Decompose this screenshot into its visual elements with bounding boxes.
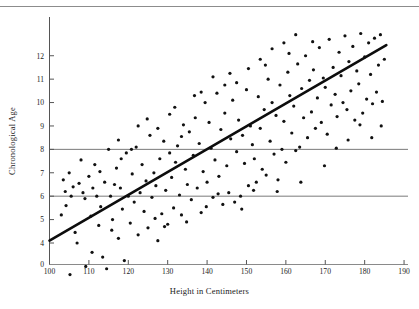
data-point <box>287 52 290 55</box>
data-point <box>168 113 171 116</box>
data-points-group <box>60 32 386 276</box>
data-point <box>221 203 224 206</box>
data-point <box>121 207 124 210</box>
data-point <box>173 106 176 109</box>
data-point <box>375 90 378 93</box>
y-tick-label: 7 <box>40 169 44 178</box>
data-point <box>240 207 243 210</box>
data-point <box>381 100 384 103</box>
data-point <box>270 47 273 50</box>
data-point <box>373 37 376 40</box>
data-point <box>359 32 362 35</box>
data-point <box>62 178 65 181</box>
data-point <box>153 217 156 220</box>
data-point <box>176 144 179 147</box>
data-point <box>280 148 283 151</box>
data-point <box>358 123 361 126</box>
data-point <box>68 171 71 174</box>
x-tick-label: 140 <box>201 267 213 276</box>
data-point <box>90 251 93 254</box>
data-point <box>117 237 120 240</box>
data-point <box>235 150 238 153</box>
data-point <box>247 67 250 70</box>
data-point <box>166 223 169 226</box>
data-point <box>164 189 167 192</box>
data-point <box>304 54 307 57</box>
data-point <box>98 170 101 173</box>
data-point <box>146 226 149 229</box>
data-point <box>290 131 293 134</box>
data-point <box>115 166 118 169</box>
data-point <box>125 151 128 154</box>
data-point <box>239 195 242 198</box>
data-point <box>257 95 260 98</box>
data-point <box>365 97 368 100</box>
data-point <box>64 204 67 207</box>
data-point <box>158 157 161 160</box>
data-point <box>380 124 383 127</box>
data-point <box>383 58 386 61</box>
data-point <box>253 157 256 160</box>
data-point <box>129 222 132 225</box>
data-point <box>93 163 96 166</box>
y-tick-label: 12 <box>36 52 44 61</box>
data-point <box>328 38 331 41</box>
data-point <box>326 133 329 136</box>
data-point <box>339 74 342 77</box>
data-point <box>107 148 110 151</box>
data-point <box>335 115 338 118</box>
data-point <box>282 120 285 123</box>
x-tick-label: 190 <box>398 267 410 276</box>
data-point <box>217 175 220 178</box>
data-point <box>302 116 305 119</box>
data-point <box>243 162 246 165</box>
data-point <box>274 114 277 117</box>
data-point <box>87 175 90 178</box>
data-point <box>370 136 373 139</box>
data-point <box>322 76 325 79</box>
data-point <box>312 68 315 71</box>
data-point <box>142 210 145 213</box>
data-point <box>77 182 80 185</box>
y-tick-label: 0 <box>40 260 44 269</box>
x-tick-label: 180 <box>359 267 371 276</box>
figure-container: 1001101201301401501601701801900456789101… <box>0 0 419 309</box>
data-point <box>156 239 159 242</box>
data-point <box>320 121 323 124</box>
data-point <box>174 161 177 164</box>
data-point <box>162 140 165 143</box>
data-point <box>185 220 188 223</box>
y-axis-label: Chronological Age <box>7 96 17 186</box>
x-tick-label: 130 <box>162 267 174 276</box>
data-point <box>135 145 138 148</box>
data-point <box>227 191 230 194</box>
data-point <box>148 134 151 137</box>
data-point <box>184 168 187 171</box>
data-point <box>75 241 78 244</box>
data-point <box>152 171 155 174</box>
data-point <box>211 196 214 199</box>
data-point <box>137 124 140 127</box>
data-point <box>172 206 175 209</box>
axes-group <box>50 17 409 265</box>
data-point <box>79 158 82 161</box>
x-tick-label: 150 <box>241 267 253 276</box>
data-point <box>299 181 302 184</box>
data-point <box>123 259 126 262</box>
data-point <box>204 101 207 104</box>
data-point <box>228 72 231 75</box>
data-point <box>160 212 163 215</box>
data-point <box>251 143 254 146</box>
x-tick-label: 110 <box>83 267 94 276</box>
data-point <box>120 157 123 160</box>
data-point <box>259 58 262 61</box>
data-point <box>119 186 122 189</box>
data-point <box>190 198 193 201</box>
data-point <box>117 138 120 141</box>
data-point <box>101 255 104 258</box>
data-point <box>349 89 352 92</box>
data-point <box>261 168 264 171</box>
data-point <box>334 93 337 96</box>
data-point <box>188 130 191 133</box>
data-point <box>154 184 157 187</box>
